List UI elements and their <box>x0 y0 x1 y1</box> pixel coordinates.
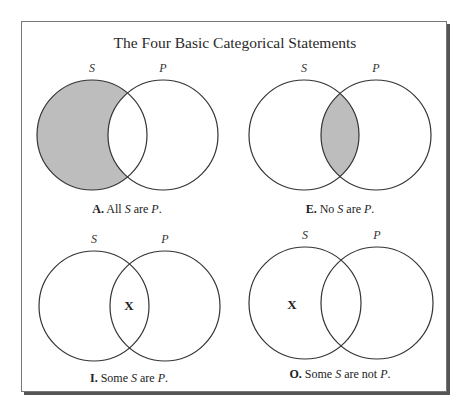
label-p: P <box>158 61 167 75</box>
venn-diagrams: S P A. All S are P. S P E. No S are P. S… <box>0 0 470 410</box>
diagram-a: S P A. All S are P. <box>37 61 218 216</box>
label-p: P <box>371 61 380 75</box>
label-s: S <box>302 228 308 242</box>
label-s: S <box>301 61 307 75</box>
label-s: S <box>91 232 97 246</box>
x-mark-intersection: X <box>124 298 134 313</box>
diagram-e: S P E. No S are P. <box>249 61 431 216</box>
caption-a: A. All S are P. <box>92 202 161 216</box>
caption-i: I. Some S are P. <box>90 371 168 385</box>
shaded-s-only-region <box>37 80 218 190</box>
x-mark-s-only: X <box>287 297 297 312</box>
label-s: S <box>89 61 95 75</box>
caption-o: O. Some S are not P. <box>289 367 390 381</box>
circle-p <box>321 247 433 359</box>
diagram-i: S P X I. Some S are P. <box>39 232 220 385</box>
diagram-o: S P X O. Some S are not P. <box>249 228 433 381</box>
circle-p <box>108 80 218 190</box>
label-p: P <box>372 228 381 242</box>
circle-s <box>249 247 361 359</box>
caption-e: E. No S are P. <box>306 202 375 216</box>
label-p: P <box>160 232 169 246</box>
